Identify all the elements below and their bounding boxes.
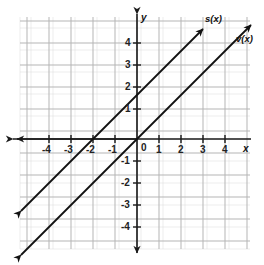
function-label-v: v(x) — [236, 34, 253, 44]
y-tick-label-3: 3 — [125, 60, 131, 70]
x-tick-label-neg2: -2 — [86, 145, 95, 155]
y-tick-label-4: 4 — [125, 38, 131, 48]
x-tick-label-1: 1 — [156, 145, 162, 155]
coordinate-plane-svg — [0, 0, 264, 265]
graph-figure: y x 0 -4 -3 -2 -1 1 2 3 4 4 3 2 1 -1 -2 … — [0, 0, 264, 265]
x-tick-label-neg4: -4 — [42, 145, 51, 155]
x-tick-label-4: 4 — [222, 145, 228, 155]
function-label-s: s(x) — [205, 14, 222, 24]
y-tick-label-2: 2 — [125, 82, 131, 92]
x-tick-label-neg1: -1 — [108, 145, 117, 155]
origin-label: 0 — [141, 143, 147, 153]
x-axis-label: x — [243, 144, 249, 154]
y-tick-label-neg4: -4 — [121, 222, 130, 232]
y-tick-label-neg3: -3 — [121, 200, 130, 210]
x-tick-label-neg3: -3 — [64, 145, 73, 155]
x-tick-label-3: 3 — [200, 145, 206, 155]
figure-background — [0, 0, 264, 265]
x-tick-label-2: 2 — [178, 145, 184, 155]
y-tick-label-neg2: -2 — [121, 178, 130, 188]
y-tick-label-1: 1 — [125, 104, 131, 114]
y-tick-label-neg1: -1 — [121, 156, 130, 166]
y-axis-label: y — [141, 13, 147, 23]
